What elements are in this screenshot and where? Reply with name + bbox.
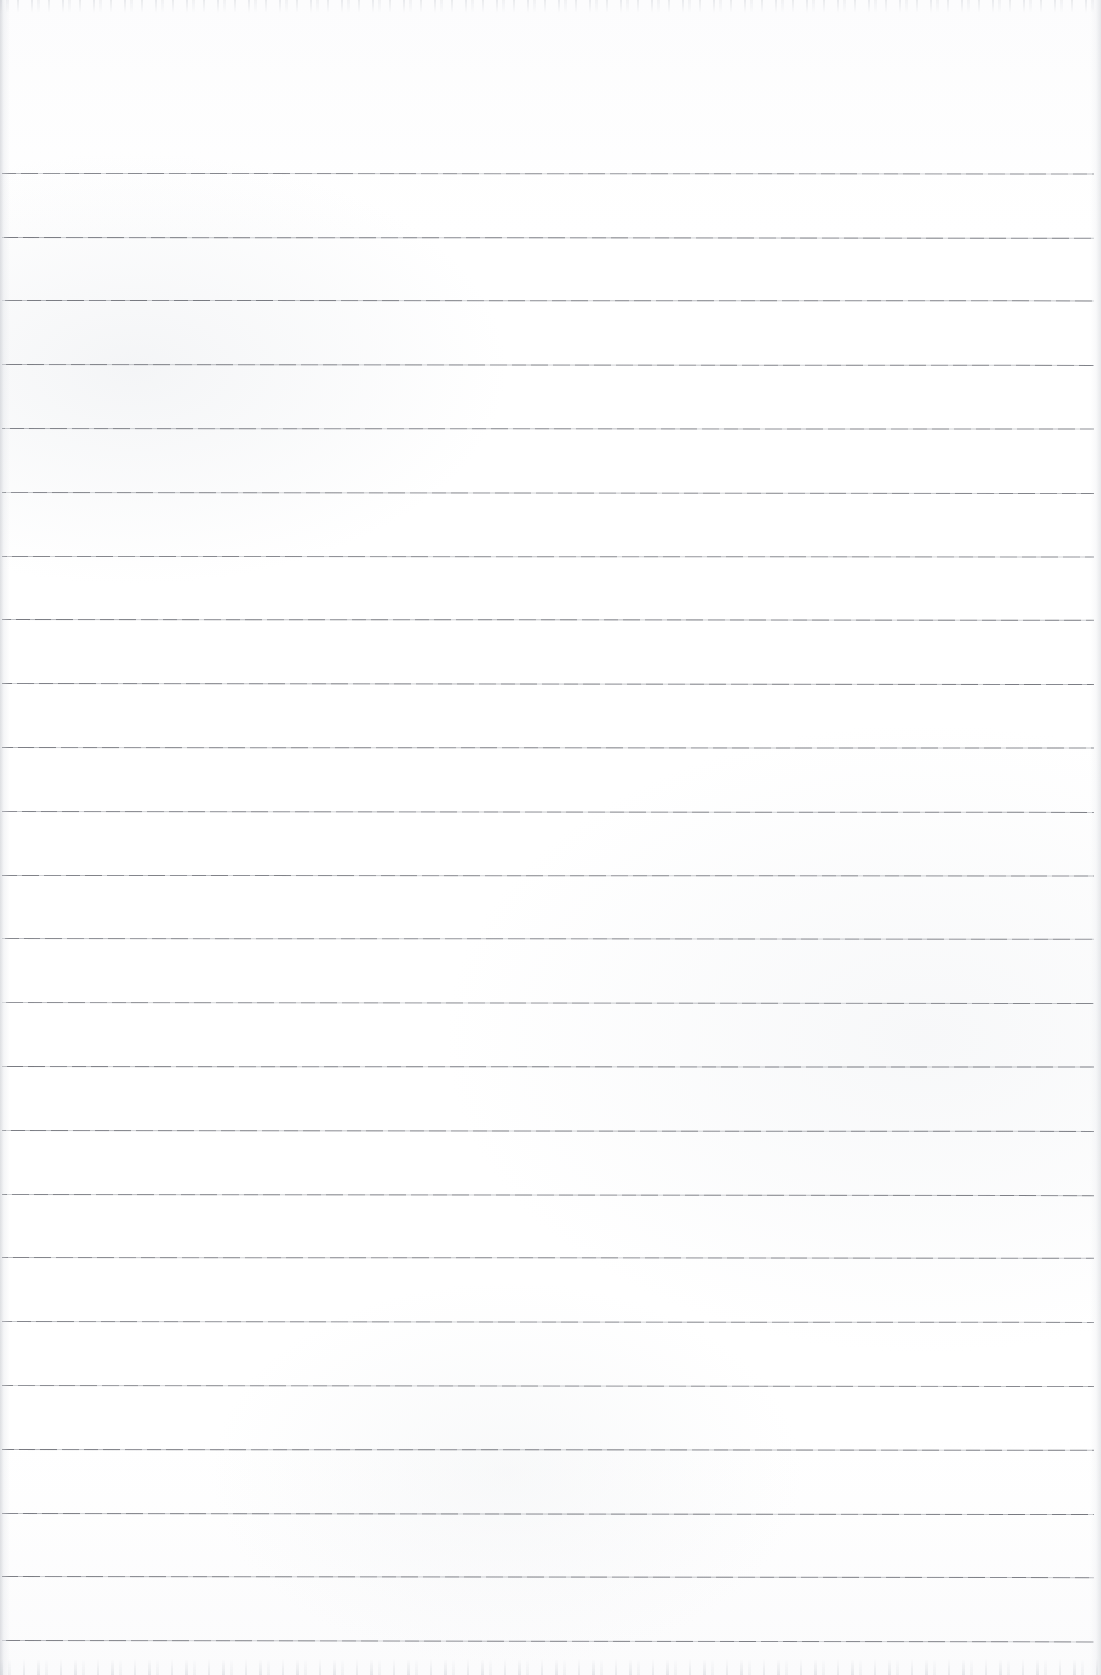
rule-line <box>2 556 1094 557</box>
rule-line <box>2 1130 1094 1132</box>
rule-line <box>2 619 1094 621</box>
left-edge-shadow <box>0 0 10 1675</box>
rule-line <box>2 1321 1094 1323</box>
rule-line <box>2 938 1094 940</box>
rule-line <box>2 1257 1094 1259</box>
bottom-scan-noise-band <box>0 1659 1101 1675</box>
top-scan-noise-band <box>0 0 1101 13</box>
rule-line <box>2 1576 1094 1578</box>
rule-line <box>2 173 1094 174</box>
right-edge-shadow <box>1090 0 1101 1675</box>
ruled-lines-group <box>0 0 1101 1675</box>
rule-line <box>2 1385 1094 1387</box>
rule-line <box>2 1640 1094 1642</box>
rule-line <box>2 747 1094 749</box>
rule-line <box>2 300 1094 301</box>
rule-line <box>2 1002 1094 1004</box>
rule-line <box>2 811 1094 813</box>
rule-line <box>2 1449 1094 1451</box>
rule-line <box>2 237 1094 239</box>
rule-line <box>2 1513 1094 1515</box>
scanned-page <box>0 0 1101 1675</box>
rule-line <box>2 492 1094 494</box>
rule-line <box>2 364 1094 366</box>
rule-line <box>2 875 1094 876</box>
rule-line <box>2 428 1094 430</box>
rule-line <box>2 1066 1094 1068</box>
rule-line <box>2 683 1094 685</box>
rule-line <box>2 1194 1094 1196</box>
